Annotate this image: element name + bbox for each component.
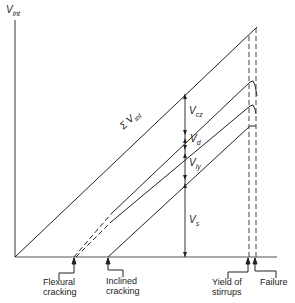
- vcz-label: Vcz: [189, 106, 203, 120]
- flexural-cracking-label: Flexuralcracking: [43, 277, 77, 297]
- yield-of-stirrups-label: Yield ofstirrups: [212, 277, 242, 297]
- failure-label: Failure: [260, 277, 288, 287]
- y-axis-label: Vint: [6, 5, 20, 19]
- vd-label: Vd: [190, 134, 201, 148]
- vd-dashed-segment: [76, 222, 111, 257]
- sum-vint-line: [15, 27, 257, 257]
- vcz-dashed-segment: [74, 214, 111, 257]
- inclined-cracking-label: Inclinedcracking: [106, 276, 140, 296]
- vs-label: Vs: [189, 215, 199, 229]
- event-arrows: [59, 258, 276, 280]
- viy-curve: [108, 126, 256, 257]
- shear-diagram: [0, 0, 295, 303]
- viy-label: Viy: [189, 158, 201, 172]
